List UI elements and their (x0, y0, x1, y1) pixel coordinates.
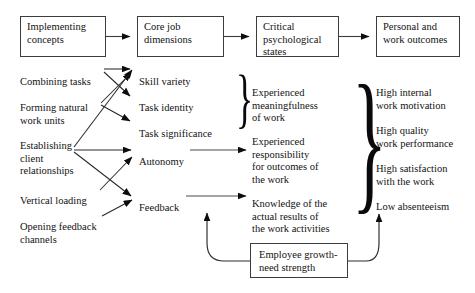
item-label: High internal work motivation (376, 87, 446, 110)
item-experienced-meaningfulness: Experienced meaningfulness of work (252, 75, 318, 125)
item-skill-variety: Skill variety (139, 64, 191, 89)
header-box-label: Critical psychological states (263, 21, 321, 57)
item-label: Establishing client relationships (20, 140, 74, 176)
arrow-vertical-loading-to-autonomy (100, 157, 132, 190)
item-high-quality-work-performance: High quality work performance (376, 113, 453, 150)
arrow-forming-to-skill-variety (101, 73, 131, 103)
core-dimensions-brace: } (236, 66, 253, 131)
item-high-internal-work-motivation: High internal work motivation (376, 75, 446, 112)
header-box-core-job-dimensions: Core job dimensions (137, 16, 224, 57)
header-box-personal-and-work-outcomes: Personal and work outcomes (376, 16, 460, 57)
header-box-label: Implementing concepts (27, 21, 86, 45)
header-box-critical-psychological-states: Critical psychological states (256, 16, 339, 57)
job-characteristics-model-diagram: Implementing concepts Core job dimension… (0, 0, 475, 293)
item-label: Experienced meaningfulness of work (252, 87, 318, 123)
arrow-moderator-to-feedback-path (207, 213, 250, 261)
brace-glyph: } (236, 62, 253, 133)
item-label: Combining tasks (20, 76, 91, 87)
item-label: Task significance (139, 128, 212, 139)
item-label: Vertical loading (20, 195, 87, 206)
arrow-forming-to-task-significance (101, 105, 130, 121)
item-establishing-client-relationships: Establishing client relationships (20, 128, 74, 178)
arrow-combining-to-task-identity (104, 72, 130, 96)
item-label: Skill variety (139, 76, 191, 87)
item-high-satisfaction-with-the-work: High satisfaction with the work (376, 151, 447, 188)
header-box-label: Core job dimensions (144, 21, 192, 45)
item-label: Autonomy (139, 156, 184, 167)
item-label: Forming natural work units (20, 102, 88, 125)
item-label: Feedback (139, 202, 179, 213)
item-label: Knowledge of the actual results of the w… (252, 198, 330, 234)
item-task-significance: Task significance (139, 116, 212, 141)
item-label: High satisfaction with the work (376, 163, 447, 186)
item-vertical-loading: Vertical loading (20, 183, 87, 208)
box-employee-growth-need-strength: Employee growth- need strength (250, 243, 348, 278)
item-label: High quality work performance (376, 125, 453, 148)
item-combining-tasks: Combining tasks (20, 64, 91, 89)
item-label: Task identity (139, 102, 193, 113)
item-label: Experienced responsibility for outcomes … (252, 136, 318, 184)
header-box-implementing-concepts: Implementing concepts (20, 16, 106, 57)
arrow-opening-feedback-to-feedback (102, 200, 132, 216)
header-box-label: Personal and work outcomes (383, 21, 447, 45)
item-knowledge-of-results: Knowledge of the actual results of the w… (252, 186, 330, 236)
item-autonomy: Autonomy (139, 144, 184, 169)
item-opening-feedback-channels: Opening feedback channels (20, 209, 97, 246)
box-label: Employee growth- need strength (259, 249, 337, 273)
item-task-identity: Task identity (139, 90, 193, 115)
item-forming-natural-work-units: Forming natural work units (20, 90, 88, 127)
item-feedback: Feedback (139, 190, 179, 215)
item-label: Opening feedback channels (20, 221, 97, 244)
item-label: Low absenteeism (376, 201, 449, 212)
item-low-absenteeism: Low absenteeism (376, 189, 449, 214)
item-experienced-responsibility: Experienced responsibility for outcomes … (252, 124, 318, 186)
